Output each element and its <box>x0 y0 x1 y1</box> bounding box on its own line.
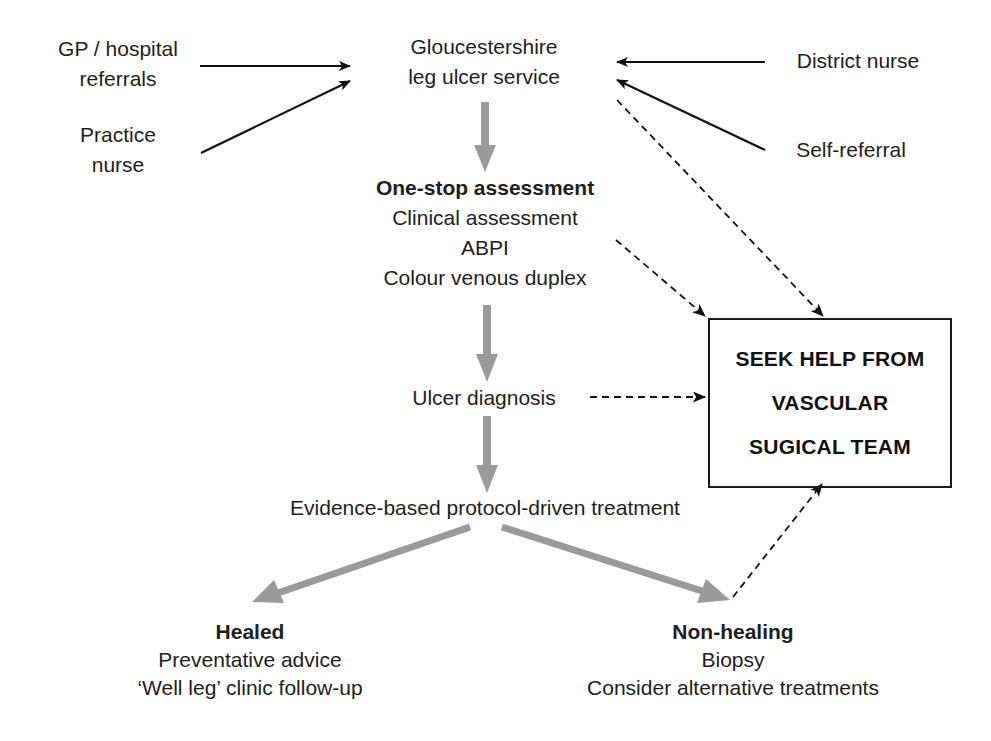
assessment-item-duplex: Colour venous duplex <box>376 263 594 293</box>
service-line-1: Gloucestershire <box>408 32 560 62</box>
healed-item-advice: Preventative advice <box>137 646 362 674</box>
assessment-node: One-stop assessment Clinical assessment … <box>376 173 594 293</box>
flow-arrow-treatment-to-healed <box>252 527 470 603</box>
solid-arrow-self-to-service <box>617 80 765 150</box>
source-district-line-1: District nurse <box>797 46 920 76</box>
service-node: Gloucestershire leg ulcer service <box>408 32 560 92</box>
vascular-box-line-1: SEEK HELP FROM <box>735 337 924 381</box>
service-line-2: leg ulcer service <box>408 62 560 92</box>
non-healing-title: Non-healing <box>587 618 879 646</box>
healed-title: Healed <box>137 618 362 646</box>
source-practice-line-2: nurse <box>80 150 156 180</box>
source-self-referral: Self-referral <box>796 135 906 165</box>
assessment-item-clinical: Clinical assessment <box>376 203 594 233</box>
flow-arrow-assessment-to-diagnosis <box>476 305 498 382</box>
source-gp-line-1: GP / hospital <box>58 34 178 64</box>
diagnosis-label: Ulcer diagnosis <box>412 383 556 413</box>
source-gp-line-2: referrals <box>58 64 178 94</box>
flow-arrow-treatment-to-nonhealing <box>502 527 730 603</box>
vascular-box-line-3: SUGICAL TEAM <box>749 425 911 469</box>
source-district-nurse: District nurse <box>797 46 920 76</box>
dashed-arrow-service-to-vascular <box>617 100 823 316</box>
vascular-box-line-2: VASCULAR <box>772 381 889 425</box>
solid-arrow-practice-to-service <box>201 81 350 153</box>
flow-arrow-diagnosis-to-treatment <box>476 416 498 493</box>
non-healing-item-alternatives: Consider alternative treatments <box>587 674 879 702</box>
source-practice-line-1: Practice <box>80 120 156 150</box>
vascular-team-box: SEEK HELP FROM VASCULAR SUGICAL TEAM <box>708 318 952 488</box>
flow-arrow-service-to-assessment <box>474 102 496 172</box>
diagnosis-node: Ulcer diagnosis <box>412 383 556 413</box>
source-gp-hospital-referrals: GP / hospital referrals <box>58 34 178 94</box>
source-practice-nurse: Practice nurse <box>80 120 156 180</box>
treatment-label: Evidence-based protocol-driven treatment <box>290 493 680 523</box>
healed-node: Healed Preventative advice ‘Well leg’ cl… <box>137 618 362 702</box>
dashed-arrow-assessment-to-vascular <box>616 240 705 316</box>
treatment-node: Evidence-based protocol-driven treatment <box>290 493 680 523</box>
non-healing-item-biopsy: Biopsy <box>587 646 879 674</box>
source-self-line-1: Self-referral <box>796 135 906 165</box>
non-healing-node: Non-healing Biopsy Consider alternative … <box>587 618 879 702</box>
assessment-item-abpi: ABPI <box>376 233 594 263</box>
dashed-arrow-nonhealing-to-vascular <box>733 484 822 597</box>
healed-item-followup: ‘Well leg’ clinic follow-up <box>137 674 362 702</box>
assessment-title: One-stop assessment <box>376 173 594 203</box>
